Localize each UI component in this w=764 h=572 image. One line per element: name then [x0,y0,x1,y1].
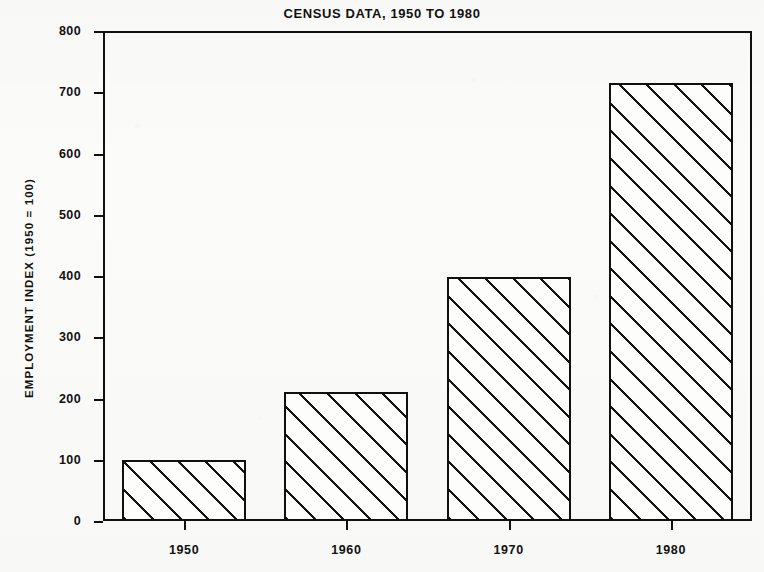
y-axis-tick-label: 600 [59,147,81,161]
y-axis-title: EMPLOYMENT INDEX (1950 = 100) [23,108,35,468]
y-axis-tick [94,31,103,33]
x-axis-tick-label: 1960 [331,543,361,557]
y-axis-tick [94,521,103,523]
y-axis-tick-label: 500 [59,208,81,222]
x-axis-tick [671,521,673,530]
y-axis-tick [94,399,103,401]
bar-1960 [284,392,408,521]
y-axis-tick [94,276,103,278]
chart-title: CENSUS DATA, 1950 TO 1980 [0,6,764,21]
y-axis-tick-label: 800 [59,24,81,38]
x-axis-tick-label: 1970 [494,543,524,557]
bar-1970 [447,277,571,521]
x-axis-tick-label: 1980 [656,543,686,557]
bar-1950 [122,460,246,521]
y-axis-tick [94,215,103,217]
y-axis-tick-label: 400 [59,269,81,283]
y-axis-tick [94,337,103,339]
x-axis-tick [184,521,186,530]
x-axis-tick-label: 1950 [169,543,199,557]
y-axis-tick-label: 100 [59,453,81,467]
y-axis-tick [94,92,103,94]
plot-area: 0100200300400500600700800 19501960197019… [103,31,752,521]
y-axis-tick-label: 200 [59,392,81,406]
y-axis-tick-label: 0 [74,514,81,528]
chart-page: CENSUS DATA, 1950 TO 1980 EMPLOYMENT IND… [0,0,764,572]
y-axis-tick [94,460,103,462]
x-axis-tick [509,521,511,530]
y-axis-tick-label: 300 [59,330,81,344]
x-axis-tick [346,521,348,530]
bar-1980 [609,83,733,521]
y-axis-tick [94,154,103,156]
y-axis-tick-label: 700 [59,85,81,99]
